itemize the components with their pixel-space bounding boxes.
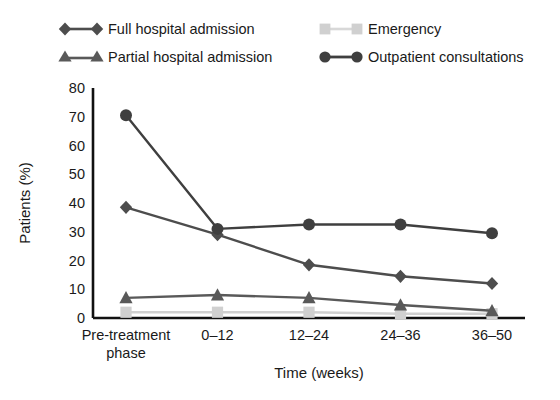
chart-container: Full hospital admission Partial hospital…: [0, 0, 560, 400]
series-circle: [120, 109, 498, 239]
data-point: [486, 277, 498, 290]
y-axis-tick-label: 50: [69, 166, 85, 182]
data-point: [486, 227, 498, 239]
x-axis-tick-label: 24–36: [380, 327, 420, 343]
y-axis-tick-label: 20: [69, 253, 85, 269]
series-diamond: [120, 201, 498, 290]
y-axis-tick-label: 70: [69, 109, 85, 125]
y-axis-tick-label: 40: [69, 195, 85, 211]
data-point: [120, 307, 131, 318]
data-point: [212, 307, 223, 318]
y-axis-tick-label: 0: [77, 310, 85, 326]
series-line: [126, 115, 492, 233]
data-point: [212, 223, 224, 235]
data-point: [303, 219, 315, 231]
x-axis-title: Time (weeks): [274, 364, 363, 381]
y-axis-title: Patients (%): [16, 162, 33, 244]
y-axis-tick-label: 80: [69, 80, 85, 96]
data-point: [394, 270, 406, 283]
data-point: [395, 219, 407, 231]
data-point: [303, 307, 314, 318]
x-axis-tick-label: Pre-treatment: [82, 327, 171, 343]
x-axis-tick-label: 0–12: [201, 327, 233, 343]
x-axis-tick-label: 12–24: [289, 327, 329, 343]
y-axis-tick-label: 10: [69, 281, 85, 297]
y-axis-tick-label: 30: [69, 224, 85, 240]
x-axis-tick-label: 36–50: [472, 327, 512, 343]
data-point: [303, 258, 315, 271]
y-axis-tick-label: 60: [69, 138, 85, 154]
x-axis-tick-label: phase: [106, 345, 146, 361]
chart-plot-area: 01020304050607080Patients (%)Pre-treatme…: [0, 0, 560, 400]
data-point: [120, 201, 132, 214]
data-point: [120, 109, 132, 121]
